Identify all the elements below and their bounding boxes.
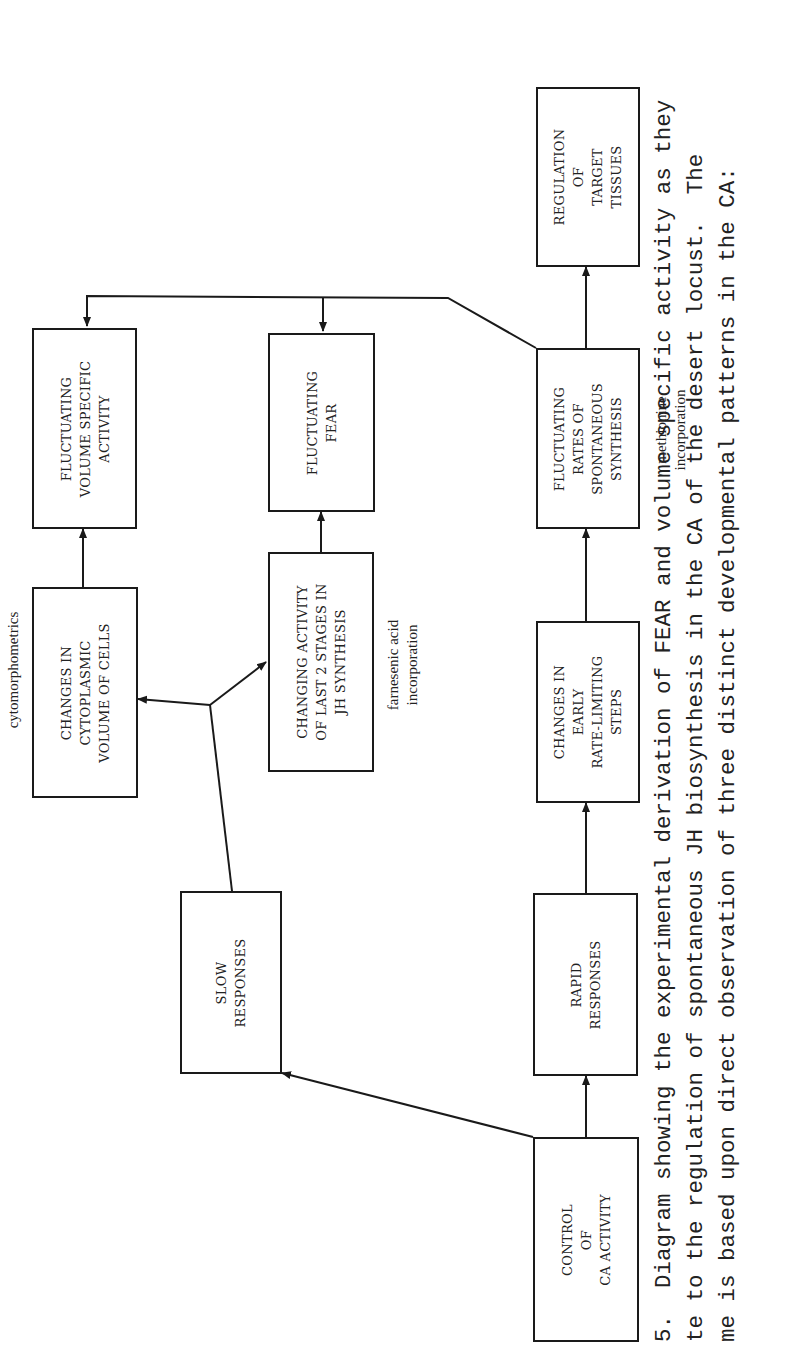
node-label: CONTROL OF CA ACTIVITY bbox=[558, 1194, 615, 1286]
node-label: REGULATION OF TARGET TISSUES bbox=[550, 129, 626, 226]
node-label: FLUCTUATING VOLUME SPECIFIC ACTIVITY bbox=[56, 360, 113, 496]
annotation-cytomorphometrics: cytomorphometrics bbox=[4, 595, 23, 745]
node-label: CHANGING ACTIVITY OF LAST 2 STAGES IN JH… bbox=[293, 583, 350, 740]
node-label: CHANGES IN CYTOPLASMIC VOLUME OF CELLS bbox=[57, 623, 114, 763]
node-regulation-target-tissues: REGULATION OF TARGET TISSUES bbox=[536, 87, 640, 267]
node-changes-cytoplasmic-volume: CHANGES IN CYTOPLASMIC VOLUME OF CELLS bbox=[32, 587, 138, 798]
node-rapid-responses: RAPID RESPONSES bbox=[533, 893, 638, 1076]
node-slow-responses: SLOW RESPONSES bbox=[180, 891, 282, 1074]
node-label: SLOW RESPONSES bbox=[212, 938, 250, 1027]
annotation-farnesenic-acid: farnesenic acid incorporation bbox=[384, 585, 422, 745]
node-label: RAPID RESPONSES bbox=[567, 940, 605, 1029]
node-changing-activity-last-stages: CHANGING ACTIVITY OF LAST 2 STAGES IN JH… bbox=[268, 552, 374, 772]
node-fluctuating-volume-specific-activity: FLUCTUATING VOLUME SPECIFIC ACTIVITY bbox=[32, 328, 137, 529]
figure-caption: 5. Diagram showing the experimental deri… bbox=[648, 0, 744, 1342]
node-fluctuating-spontaneous-synthesis: FLUCTUATING RATES OF SPONTANEOUS SYNTHES… bbox=[536, 348, 640, 529]
node-control-ca-activity: CONTROL OF CA ACTIVITY bbox=[533, 1137, 639, 1342]
node-fluctuating-fear: FLUCTUATING FEAR bbox=[268, 333, 375, 512]
node-changes-early-rate-limiting: CHANGES IN EARLY RATE-LIMITING STEPS bbox=[536, 621, 640, 803]
node-label: FLUCTUATING FEAR bbox=[303, 370, 341, 475]
node-label: CHANGES IN EARLY RATE-LIMITING STEPS bbox=[550, 656, 626, 769]
node-label: FLUCTUATING RATES OF SPONTANEOUS SYNTHES… bbox=[550, 383, 626, 495]
